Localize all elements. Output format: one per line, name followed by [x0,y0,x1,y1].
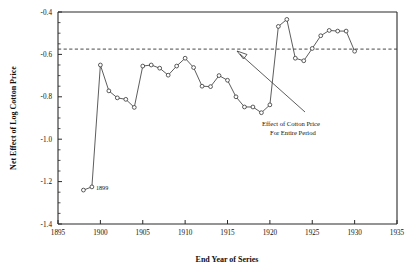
x-tick-label: 1930 [347,229,362,237]
data-point-marker [107,89,111,93]
data-point-marker [175,64,179,68]
data-point-marker [217,74,221,78]
y-tick-label: -0.4 [41,9,53,17]
chart-figure: -0.4-0.6-0.8-1.0-1.2-1.4 189519001905191… [0,0,412,274]
data-point-marker [98,63,102,67]
data-point-marker [158,66,162,70]
data-point-marker [285,18,289,22]
x-tick-label: 1925 [305,229,320,237]
x-axis-tick-labels: 189519001905191019151920192519301935 [51,229,405,237]
data-point-marker [183,56,187,60]
data-point-marker [226,78,230,82]
y-axis-title: Net Effect of Log Cotton Price [9,66,18,170]
data-point-marker [90,185,94,189]
x-tick-label: 1935 [390,229,405,237]
y-tick-label: -0.6 [41,51,53,59]
data-point-label: 1899 [96,184,108,191]
y-tick-label: -1.4 [41,221,53,229]
data-point-marker [276,25,280,29]
x-tick-label: 1900 [93,229,108,237]
series-line [83,19,354,190]
data-point-marker [310,47,314,51]
data-point-marker [141,64,145,68]
annotation-leader-line [240,54,305,112]
data-point-marker [192,66,196,70]
data-point-marker [200,84,204,88]
data-point-marker [344,29,348,33]
y-tick-label: -1.0 [41,136,53,144]
annotation-text-line2: For Entire Period [270,129,316,136]
x-tick-label: 1920 [263,229,278,237]
annotation-text-line1: Effect of Cotton Price [262,120,320,127]
x-tick-label: 1915 [220,229,235,237]
data-point-marker [132,106,136,110]
annotation-arrowhead [237,51,247,59]
x-axis-ticks [58,220,397,224]
data-point-marker [209,85,213,89]
data-point-marker [149,63,153,67]
data-point-marker [234,95,238,99]
data-point-marker [115,96,119,100]
data-point-marker [353,49,357,53]
data-point-marker [319,34,323,38]
y-tick-label: -0.8 [41,93,53,101]
x-axis-title: End Year of Series [196,255,259,264]
plot-axes [58,12,397,224]
x-tick-label: 1910 [178,229,193,237]
y-tick-label: -1.2 [41,178,53,186]
data-point-marker [336,29,340,33]
y-axis-tick-labels: -0.4-0.6-0.8-1.0-1.2-1.4 [41,9,53,229]
data-point-marker [302,59,306,63]
x-tick-label: 1895 [51,229,66,237]
data-point-marker [82,188,86,192]
data-point-marker [124,97,128,101]
data-point-marker [260,111,264,115]
x-tick-label: 1905 [136,229,151,237]
data-point-marker [327,29,331,33]
data-point-marker [268,103,272,107]
data-point-marker [251,105,255,109]
point-labels: 1899 [96,184,108,191]
data-point-marker [243,105,247,109]
data-point-marker [293,56,297,60]
cotton-price-line-chart: -0.4-0.6-0.8-1.0-1.2-1.4 189519001905191… [0,0,412,274]
data-point-marker [166,73,170,77]
